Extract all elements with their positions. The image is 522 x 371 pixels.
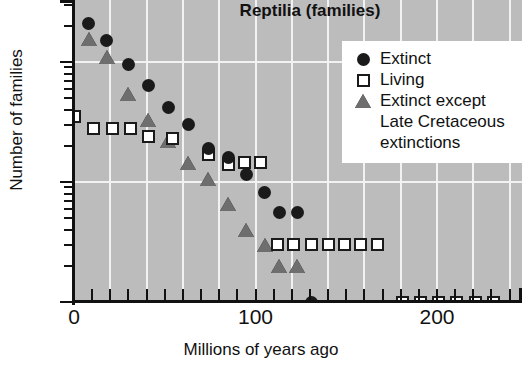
gridline-vertical [255,0,257,302]
data-point-open-square [305,238,318,251]
data-point-filled-triangle [140,113,156,127]
x-tick [509,289,511,301]
data-point-filled-triangle [99,50,115,64]
gridline-vertical [291,0,293,302]
data-point-filled-circle [142,79,155,92]
data-point-filled-circle [258,186,271,199]
x-tick [472,289,474,301]
y-tick-minor [64,109,75,111]
legend-label-continuation: Late Cretaceous [380,112,505,131]
x-tick [273,289,275,301]
x-tick [73,289,75,301]
x-tick [164,289,166,301]
x-tick [127,289,129,301]
x-tick [327,289,329,301]
x-tick [182,289,184,301]
legend-label: Extinct [380,49,431,68]
gridline-vertical [146,0,148,302]
x-tick [309,289,311,301]
x-tick [200,289,202,301]
data-point-open-square [124,122,137,135]
y-tick-minor [64,25,75,27]
y-tick-minor [64,145,75,147]
data-point-filled-circle [202,142,215,155]
data-point-open-square [371,238,384,251]
x-tick [400,289,402,301]
data-point-filled-circle [240,168,253,181]
data-point-open-square [106,122,119,135]
y-tick-major [60,301,75,303]
y-tick-minor [64,66,75,68]
y-tick-minor [64,73,75,75]
data-point-open-square [287,238,300,251]
y-axis-top-cap [60,0,75,3]
x-tick-label: 100 [216,306,296,327]
x-axis-title: Millions of years ago [0,340,522,360]
x-tick [236,289,238,301]
legend-marker [357,74,370,87]
data-point-filled-triangle [220,197,236,211]
y-tick-minor [64,217,75,219]
x-tick [291,289,293,301]
legend-marker [355,94,371,108]
legend-symbol-open-square-icon [352,70,374,89]
y-axis-line [72,0,75,305]
x-tick [418,289,420,301]
legend-marker [357,53,370,66]
data-point-filled-triangle [81,32,97,46]
gridline-vertical [218,0,220,302]
data-point-filled-circle [273,206,286,219]
x-tick [490,289,492,301]
legend-symbol-filled-triangle-icon [352,91,374,110]
y-tick-minor [64,88,75,90]
data-point-filled-triangle [271,259,287,273]
data-point-filled-circle [82,17,95,30]
chart-figure: 110100 0100200 Reptilia (families) Numbe… [0,0,522,371]
data-point-filled-circle [291,206,304,219]
x-tick-label: 200 [397,306,477,327]
data-point-filled-circle [162,101,175,114]
y-axis-title: Number of families [7,40,27,200]
legend-label: Living [380,70,424,89]
data-point-filled-triangle [120,87,136,101]
data-point-open-square [254,156,267,169]
gridline-horizontal [74,181,522,183]
x-tick [382,289,384,301]
legend-symbol-filled-circle-icon [352,49,374,68]
x-tick [146,289,148,301]
legend-label: Extinct except [380,91,486,110]
data-point-filled-triangle [180,156,196,170]
data-point-filled-circle [222,151,235,164]
data-point-filled-triangle [200,172,216,186]
y-tick-major [60,61,75,63]
data-point-open-square [142,130,155,143]
x-tick [218,289,220,301]
gridline-vertical [182,0,184,302]
y-tick-minor [64,200,75,202]
y-tick-minor [64,244,75,246]
data-point-open-square [87,122,100,135]
y-tick-minor [64,124,75,126]
data-point-open-square [338,238,351,251]
x-tick [436,289,438,301]
data-point-open-square [322,238,335,251]
data-point-open-square [354,238,367,251]
gridline-vertical [327,0,329,302]
data-point-filled-triangle [289,259,305,273]
x-tick-label: 0 [34,306,114,327]
data-point-open-square [166,132,179,145]
data-point-filled-circle [122,58,135,71]
data-point-filled-circle [182,118,195,131]
y-tick-minor [64,265,75,267]
data-point-filled-triangle [238,223,254,237]
chart-title: Reptilia (families) [200,1,420,21]
x-tick [255,289,257,301]
chart-legend: ExtinctLivingExtinct exceptLate Cretaceo… [342,41,522,163]
y-tick-minor [64,208,75,210]
y-tick-minor [64,193,75,195]
x-tick [363,289,365,301]
x-tick [454,289,456,301]
y-tick-minor [64,186,75,188]
data-point-open-square [271,238,284,251]
x-tick [91,289,93,301]
